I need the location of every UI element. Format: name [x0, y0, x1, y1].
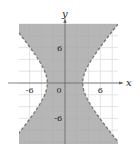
- y-tick-label: 6: [57, 44, 62, 53]
- x-tick-label: -6: [26, 86, 34, 95]
- x-axis-arrow-icon: [119, 81, 124, 84]
- hyperbola-region-chart: x y -6066-6: [0, 0, 140, 149]
- x-tick-label: 0: [56, 86, 61, 95]
- y-tick-label: -6: [54, 114, 62, 123]
- y-axis-label: y: [61, 8, 68, 19]
- x-tick-label: 6: [98, 86, 103, 95]
- x-axis-label: x: [126, 77, 132, 88]
